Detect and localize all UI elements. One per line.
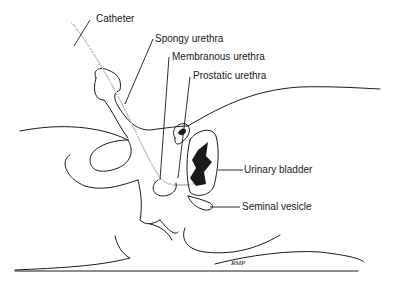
label-prostatic-urethra: Prostatic urethra [193, 71, 266, 81]
spongy-urethra-leader [125, 39, 153, 104]
catheter-leader [74, 20, 90, 46]
abdomen-outline [188, 87, 380, 126]
prostatic-urethra-leader [178, 77, 190, 178]
anatomy-drawing: RMP [0, 0, 394, 294]
leg-outline [15, 236, 130, 270]
anal-fold [160, 220, 178, 233]
label-spongy-urethra: Spongy urethra [155, 34, 223, 44]
scrotum-outline [90, 140, 131, 171]
shaft-outline [94, 78, 128, 138]
bladder-lumen [190, 142, 212, 186]
membranous-urethra-leader [160, 57, 169, 180]
diagram-canvas: RMP Catheter Spongy urethra Membranous u… [0, 0, 394, 294]
penis-outline [95, 68, 188, 130]
prostate-detail [178, 129, 186, 136]
perineum-fold [138, 180, 160, 224]
label-catheter: Catheter [96, 14, 134, 24]
seminal-vesicle-outline [188, 196, 212, 210]
thigh-outline [20, 127, 128, 140]
hatching [150, 224, 172, 240]
label-membranous-urethra: Membranous urethra [172, 52, 265, 62]
artist-signature: RMP [230, 259, 246, 267]
buttock-outline [184, 228, 280, 253]
label-seminal-vesicle: Seminal vesicle [242, 202, 311, 212]
label-urinary-bladder: Urinary bladder [244, 165, 312, 175]
